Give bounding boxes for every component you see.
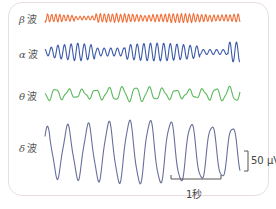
theta-waveform [45, 86, 240, 102]
time-scale-bar [171, 175, 221, 179]
delta-waveform [45, 120, 240, 184]
waveforms [0, 0, 276, 209]
amplitude-scale-label: 50 μV [251, 155, 276, 166]
amplitude-scale-bracket [244, 151, 248, 171]
alpha-waveform [45, 42, 240, 62]
time-scale-label: 1秒 [186, 186, 202, 201]
beta-waveform [45, 13, 240, 23]
